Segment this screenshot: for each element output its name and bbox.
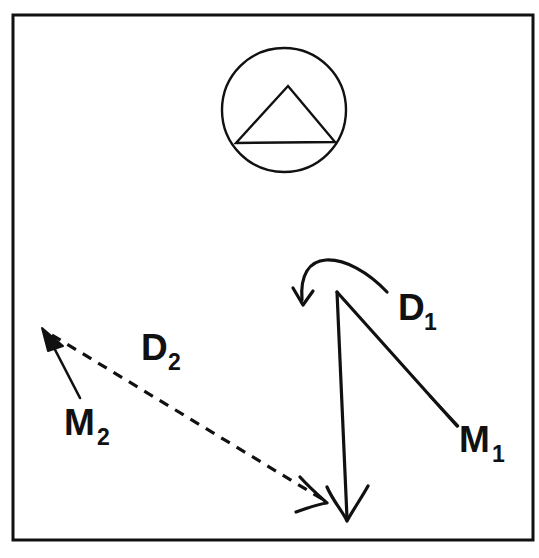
outer-border-rect bbox=[13, 15, 533, 540]
label-m2-subscript: 2 bbox=[97, 424, 110, 450]
m2-leader-arrow bbox=[42, 328, 80, 398]
label-d1-letter: D bbox=[398, 287, 425, 328]
d1-vertical-arrow-shaft bbox=[337, 292, 347, 518]
symbol-triangle-icon bbox=[236, 86, 335, 143]
label-d1: D 1 bbox=[398, 287, 437, 335]
diagram-canvas: D 1 D 2 M 1 M 2 bbox=[0, 0, 539, 558]
label-m1-subscript: 1 bbox=[492, 441, 505, 467]
label-d2-letter: D bbox=[141, 327, 168, 368]
d1-curved-arrow-shaft bbox=[302, 260, 387, 300]
d1-vertical-arrow bbox=[327, 292, 368, 521]
label-d2-subscript: 2 bbox=[168, 349, 181, 375]
label-m2-letter: M bbox=[64, 402, 95, 443]
d1-curved-arrow bbox=[293, 260, 387, 305]
diagram-svg: D 1 D 2 M 1 M 2 bbox=[0, 0, 539, 558]
d2-dashed-arrow-head-icon bbox=[296, 477, 327, 512]
label-d1-subscript: 1 bbox=[424, 309, 437, 335]
label-m1: M 1 bbox=[459, 419, 505, 467]
symbol-circle-icon bbox=[222, 48, 346, 172]
circle-with-triangle-symbol bbox=[222, 48, 346, 172]
label-m2: M 2 bbox=[64, 402, 110, 450]
label-d2: D 2 bbox=[141, 327, 181, 375]
label-m1-letter: M bbox=[459, 419, 490, 460]
m1-leader-line bbox=[430, 396, 458, 426]
